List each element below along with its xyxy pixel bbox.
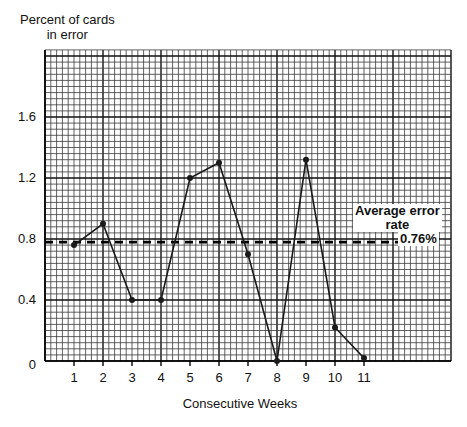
x-tick-label: 11: [352, 370, 376, 385]
y-tick-label: 0.8: [4, 231, 36, 246]
annotation-line2: rate: [355, 218, 440, 232]
x-tick-label: 2: [91, 370, 115, 385]
x-tick-label: 5: [178, 370, 202, 385]
x-tick-label: 4: [149, 370, 173, 385]
x-tick-label: 1: [62, 370, 86, 385]
average-error-rate-value: 0.76%: [398, 231, 439, 246]
x-tick-label: 8: [265, 370, 289, 385]
x-axis-label: Consecutive Weeks: [0, 396, 467, 411]
y-tick-label: 0: [4, 357, 36, 372]
y-tick-label: 1.6: [4, 109, 36, 124]
y-tick-label: 0.4: [4, 292, 36, 307]
x-tick-label: 9: [294, 370, 318, 385]
x-tick-label: 10: [323, 370, 347, 385]
y-tick-label: 1.2: [4, 170, 36, 185]
x-tick-label: 3: [120, 370, 144, 385]
average-error-rate-label: Average error rate: [353, 204, 442, 232]
x-tick-label: 6: [207, 370, 231, 385]
annotation-line1: Average error: [355, 204, 440, 218]
x-tick-label: 7: [236, 370, 260, 385]
